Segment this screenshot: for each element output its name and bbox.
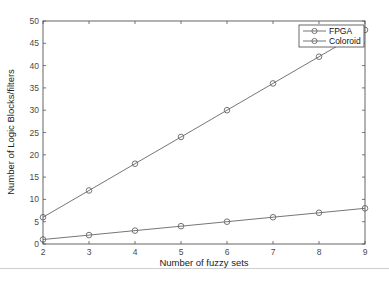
legend-label: FPGA	[329, 26, 352, 36]
y-tick-label: 35	[30, 83, 40, 93]
x-tick-label: 3	[87, 247, 92, 257]
legend-label: Coloroid	[329, 36, 361, 46]
y-axis-label: Number of Logic Blocks/filters	[5, 69, 16, 195]
y-tick-label: 25	[30, 128, 40, 138]
legend: FPGA Coloroid	[299, 25, 364, 47]
x-tick-label: 5	[179, 247, 184, 257]
x-tick-label: 4	[133, 247, 138, 257]
x-tick-label: 6	[225, 247, 230, 257]
y-tick-label: 45	[30, 38, 40, 48]
y-tick-label: 10	[30, 194, 40, 204]
y-tick-label: 20	[30, 150, 40, 160]
x-axis-label: Number of fuzzy sets	[159, 257, 248, 268]
x-tick-label: 7	[271, 247, 276, 257]
y-tick-label: 50	[30, 16, 40, 26]
y-tick-label: 0	[34, 239, 39, 249]
y-tick-label: 15	[30, 172, 40, 182]
x-tick-label: 9	[363, 247, 368, 257]
y-tick-label: 5	[34, 217, 39, 227]
y-tick-label: 30	[30, 105, 40, 115]
y-tick-label: 40	[30, 61, 40, 71]
line-chart: 2345678905101520253035404550 Number of f…	[0, 0, 389, 282]
x-tick-label: 8	[317, 247, 322, 257]
x-tick-label: 2	[41, 247, 46, 257]
divider	[0, 268, 389, 269]
